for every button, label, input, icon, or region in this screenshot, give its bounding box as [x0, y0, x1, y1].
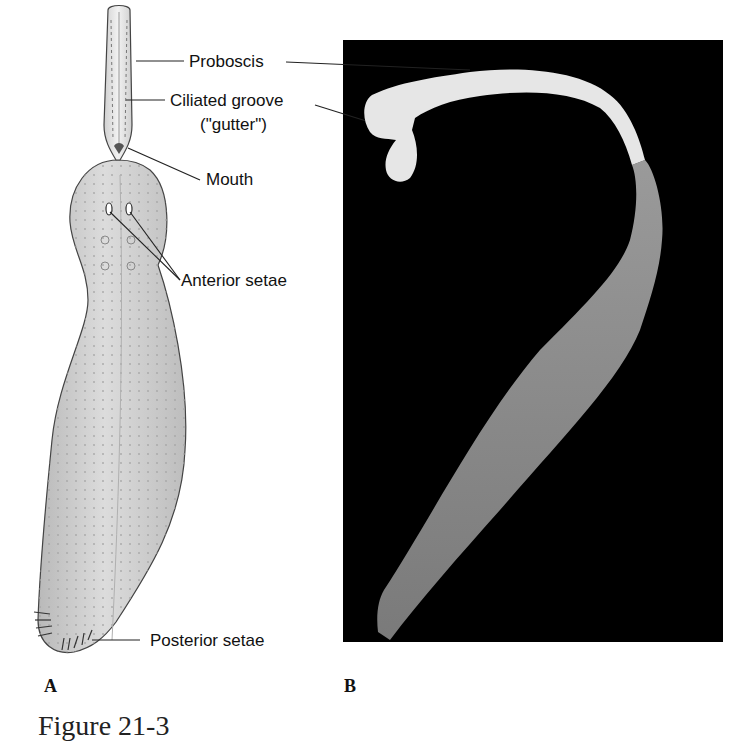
label-anterior-setae: Anterior setae: [181, 272, 287, 289]
echiuran-photograph: [364, 70, 662, 640]
panel-letter-a: A: [44, 676, 57, 697]
specimen-proboscis: [364, 70, 645, 182]
label-ciliated-groove: Ciliated groove: [170, 92, 283, 109]
panel-letter-b: B: [344, 676, 356, 697]
label-mouth: Mouth: [206, 171, 253, 188]
label-ciliated-groove-gutter: ("gutter"): [200, 116, 267, 133]
label-proboscis: Proboscis: [189, 53, 264, 70]
echiuran-illustration: [34, 6, 186, 653]
figure-caption: Figure 21-3: [38, 710, 169, 742]
specimen-trunk: [377, 160, 662, 640]
proboscis-drawing: [104, 6, 132, 161]
label-posterior-setae: Posterior setae: [150, 632, 264, 649]
